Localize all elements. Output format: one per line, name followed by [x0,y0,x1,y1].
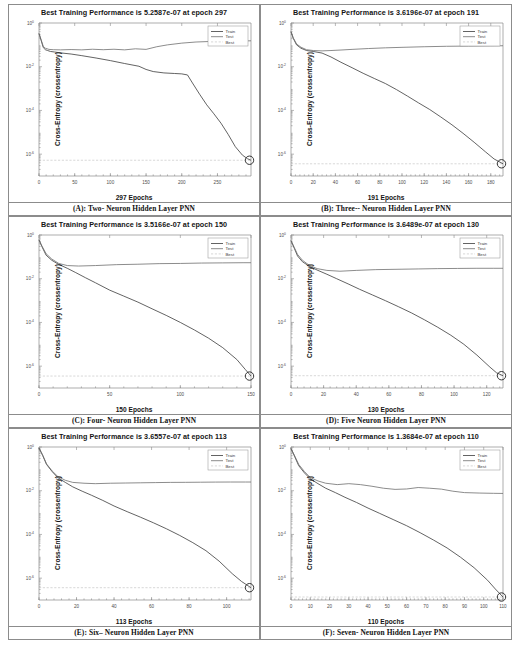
svg-text:0: 0 [290,392,293,397]
svg-text:0: 0 [290,604,293,609]
chart-panel-e: Best Training Performance is 3.6557e-07 … [8,428,260,640]
svg-text:200: 200 [178,180,186,185]
svg-text:10-2: 10-2 [278,63,286,69]
svg-text:100: 100 [279,444,286,450]
panel-caption-d: (D): Five Neuron Hidden Layer PNN [261,414,511,428]
svg-text:10-6: 10-6 [26,363,34,369]
y-axis-label: Cross-Entropy (crossentropy) [306,476,313,570]
figure-container: Best Training Performance is 5.2587e-07 … [0,0,520,658]
svg-text:100: 100 [279,20,286,26]
panel-caption-c: (C): Four- Neuron Hidden Layer PNN [9,414,259,428]
svg-text:90: 90 [462,604,468,609]
svg-text:180: 180 [487,180,495,185]
svg-text:10-2: 10-2 [278,275,286,281]
svg-text:10-2: 10-2 [26,275,34,281]
plot-title-e: Best Training Performance is 3.6557e-07 … [9,432,259,441]
svg-text:120: 120 [483,392,491,397]
plot-area: Best Training Performance is 1.3684e-07 … [261,429,511,618]
svg-text:20: 20 [321,392,327,397]
svg-text:100: 100 [107,180,115,185]
svg-text:Best: Best [226,40,235,45]
svg-text:80: 80 [377,180,383,185]
plot-svg: 02040608010012010010-210-410-6TrainTestB… [261,217,511,402]
svg-text:40: 40 [111,604,117,609]
panel-caption-b: (B): Three-- Neuron Hidden Layer PNN [261,202,511,216]
svg-text:60: 60 [386,392,392,397]
svg-text:10-4: 10-4 [26,107,34,113]
svg-text:150: 150 [247,392,255,397]
svg-text:30: 30 [346,604,352,609]
plot-title-f: Best Training Performance is 1.3684e-07 … [261,432,511,441]
chart-panel-b: Best Training Performance is 3.6196e-07 … [260,4,512,216]
plot-svg: 010203040506070809010011010010-210-410-6… [261,429,511,614]
svg-text:100: 100 [279,232,286,238]
plot-svg: 05010015020025010010-210-410-6TrainTestB… [9,5,259,190]
svg-text:10-4: 10-4 [26,319,34,325]
svg-text:0: 0 [38,392,41,397]
x-axis-label-b: 191 Epochs [261,194,511,202]
svg-text:10-2: 10-2 [278,487,286,493]
plot-svg: 02040608010012014016018010010-210-410-6T… [261,5,511,190]
svg-text:80: 80 [187,604,193,609]
svg-text:10-2: 10-2 [26,487,34,493]
svg-text:10-4: 10-4 [278,531,286,537]
svg-text:50: 50 [107,392,113,397]
svg-text:Best: Best [478,252,487,257]
y-axis-label: Cross-Entropy (crossentropy) [306,264,313,358]
svg-text:40: 40 [354,392,360,397]
svg-text:10-4: 10-4 [26,531,34,537]
svg-text:100: 100 [176,392,184,397]
svg-text:10-6: 10-6 [26,151,34,157]
svg-text:160: 160 [465,180,473,185]
svg-text:250: 250 [214,180,222,185]
svg-text:10-4: 10-4 [278,107,286,113]
svg-text:0: 0 [290,180,293,185]
svg-text:Best: Best [226,252,235,257]
plot-title-c: Best Training Performance is 3.5166e-07 … [9,220,259,229]
plot-svg: 02040608010010010-210-410-6TrainTestBest [9,429,259,614]
x-axis-label-a: 297 Epochs [9,194,259,202]
plot-area: Best Training Performance is 3.5166e-07 … [9,217,259,406]
svg-text:40: 40 [366,604,372,609]
panel-grid: Best Training Performance is 5.2587e-07 … [8,4,512,640]
plot-svg: 05010015010010-210-410-6TrainTestBest [9,217,259,402]
svg-text:140: 140 [443,180,451,185]
x-axis-label-e: 113 Epochs [9,618,259,626]
svg-text:110: 110 [499,604,507,609]
svg-text:100: 100 [450,392,458,397]
svg-text:10-6: 10-6 [26,575,34,581]
chart-panel-a: Best Training Performance is 5.2587e-07 … [8,4,260,216]
svg-text:10-2: 10-2 [26,63,34,69]
svg-text:20: 20 [74,604,80,609]
svg-text:50: 50 [72,180,78,185]
svg-text:20: 20 [311,180,317,185]
plot-area: Best Training Performance is 3.6196e-07 … [261,5,511,194]
svg-text:120: 120 [420,180,428,185]
plot-title-a: Best Training Performance is 5.2587e-07 … [9,8,259,17]
svg-text:10-6: 10-6 [278,151,286,157]
svg-text:80: 80 [419,392,425,397]
svg-text:10-6: 10-6 [278,363,286,369]
svg-text:Best: Best [226,464,235,469]
svg-text:0: 0 [38,180,41,185]
plot-title-d: Best Training Performance is 3.6489e-07 … [261,220,511,229]
svg-text:Best: Best [478,464,487,469]
plot-area: Best Training Performance is 5.2587e-07 … [9,5,259,194]
svg-text:100: 100 [398,180,406,185]
y-axis-label: Cross-Entropy (crossentropy) [306,52,313,146]
panel-caption-f: (F): Seven- Neuron Hidden Layer PNN [261,626,511,640]
svg-text:60: 60 [404,604,410,609]
svg-text:100: 100 [223,604,231,609]
svg-text:40: 40 [333,180,339,185]
plot-area: Best Training Performance is 3.6489e-07 … [261,217,511,406]
panel-caption-e: (E): Six– Neuron Hidden Layer PNN [9,626,259,640]
svg-text:20: 20 [327,604,333,609]
chart-panel-f: Best Training Performance is 1.3684e-07 … [260,428,512,640]
svg-text:70: 70 [423,604,429,609]
chart-panel-c: Best Training Performance is 3.5166e-07 … [8,216,260,428]
svg-text:100: 100 [27,232,34,238]
svg-text:100: 100 [27,444,34,450]
plot-title-b: Best Training Performance is 3.6196e-07 … [261,8,511,17]
svg-text:0: 0 [38,604,41,609]
svg-text:80: 80 [443,604,449,609]
